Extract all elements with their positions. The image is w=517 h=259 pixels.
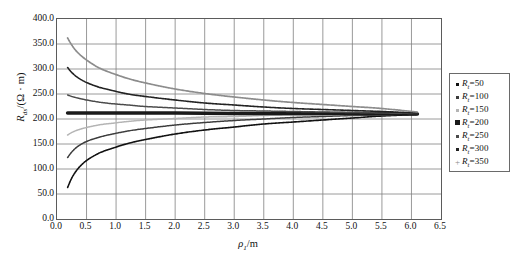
legend-item[interactable]: Rt=250 <box>453 129 507 142</box>
x-axis-label: ρ1/m <box>0 238 496 252</box>
chart-figure: Rds/(Ω · m) 0.050.0100.0150.0200.0250.03… <box>0 0 517 259</box>
legend-marker-dot-icon <box>453 93 462 101</box>
legend-item[interactable]: +Rt=350 <box>453 155 507 168</box>
plot-area <box>56 18 442 220</box>
series-line <box>68 114 418 158</box>
series-line <box>68 38 418 112</box>
grid-lines <box>57 19 441 219</box>
series-line <box>68 115 418 188</box>
series-line <box>68 68 418 114</box>
legend-item[interactable]: Rt=300 <box>453 142 507 155</box>
legend-marker-dot-icon <box>453 106 462 114</box>
legend-label: Rt=350 <box>462 156 489 168</box>
legend-marker-dot-icon <box>453 145 462 153</box>
legend-item[interactable]: Rt=50 <box>453 77 507 90</box>
legend-label: Rt=50 <box>462 78 484 90</box>
legend: Rt=50Rt=100Rt=150Rt=200Rt=250Rt=300+Rt=3… <box>449 73 510 172</box>
plot-canvas <box>57 19 441 219</box>
legend-label: Rt=250 <box>462 130 489 142</box>
legend-item[interactable]: Rt=200 <box>453 116 507 129</box>
legend-label: Rt=150 <box>462 104 489 116</box>
x-axis-label-unit: /m <box>247 238 258 249</box>
x-axis-tick-label: 6.5 <box>420 221 460 231</box>
legend-item[interactable]: Rt=100 <box>453 90 507 103</box>
legend-marker-dot-icon <box>453 132 462 140</box>
legend-marker-dot-icon <box>453 80 462 88</box>
legend-marker-square-icon <box>453 119 462 127</box>
legend-marker-plus-icon: + <box>453 158 462 166</box>
legend-label: Rt=300 <box>462 143 489 155</box>
legend-label: Rt=200 <box>462 117 489 129</box>
legend-label: Rt=100 <box>462 91 489 103</box>
legend-item[interactable]: Rt=150 <box>453 103 507 116</box>
